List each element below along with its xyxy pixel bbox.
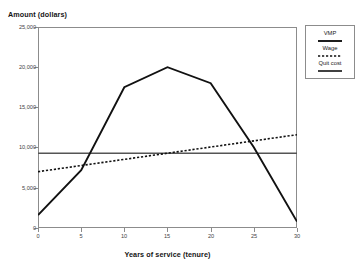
x-tick-label-25: 25: [244, 233, 264, 239]
legend-label-vmp: VMP: [324, 29, 337, 38]
x-tick-label-15: 15: [157, 233, 177, 239]
legend-item-wage: Wage: [308, 44, 352, 59]
legend-label-wage: Wage: [323, 44, 338, 53]
x-tick-label-10: 10: [114, 233, 134, 239]
x-tick-label-20: 20: [201, 233, 221, 239]
legend-label-quit-cost: Quit cost: [319, 59, 342, 68]
chart-legend: VMP Wage Quit cost: [305, 25, 355, 79]
x-tick-label-30: 30: [287, 233, 307, 239]
chart-figure: Amount (dollars) 25,000 20,000 15,000 10…: [0, 0, 363, 274]
legend-sample-solid-thin-icon: [317, 68, 343, 74]
x-tick-label-5: 5: [71, 233, 91, 239]
legend-item-quit-cost: Quit cost: [308, 59, 352, 74]
x-axis-title: Years of service (tenure): [38, 250, 297, 259]
legend-item-vmp: VMP: [308, 29, 352, 44]
x-tick-label-0: 0: [28, 233, 48, 239]
